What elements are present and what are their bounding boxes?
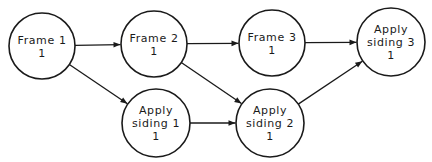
arrow-line xyxy=(69,64,127,103)
node-duration: 1 xyxy=(387,49,395,62)
arrow-line xyxy=(181,63,241,104)
nodes: Frame 11Frame 21Frame 31Applysiding 31Ap… xyxy=(9,8,425,157)
arrow-line xyxy=(75,45,121,46)
node-frame2: Frame 21 xyxy=(121,11,187,77)
node-label: Apply xyxy=(139,104,173,117)
node-duration: 1 xyxy=(266,130,274,143)
node-duration: 1 xyxy=(38,47,46,60)
node-label: Frame 2 xyxy=(130,32,179,45)
node-duration: 1 xyxy=(268,44,276,57)
node-siding3: Applysiding 31 xyxy=(357,8,425,76)
node-frame3: Frame 31 xyxy=(239,10,305,76)
node-label: Apply xyxy=(253,104,287,117)
node-duration: 1 xyxy=(150,45,158,58)
node-frame1: Frame 11 xyxy=(9,13,75,79)
edge-frame1-to-siding1 xyxy=(69,64,127,103)
arrow-line xyxy=(298,61,362,104)
edge-frame1-to-frame2 xyxy=(75,45,121,46)
edge-siding2-to-siding3 xyxy=(298,61,362,104)
edge-frame2-to-siding2 xyxy=(181,63,241,104)
node-label: Frame 3 xyxy=(248,31,297,44)
node-label: siding 2 xyxy=(246,117,294,130)
activity-network-diagram: Frame 11Frame 21Frame 31Applysiding 31Ap… xyxy=(0,0,432,162)
node-duration: 1 xyxy=(152,130,160,143)
node-siding1: Applysiding 11 xyxy=(122,89,190,157)
node-label: siding 3 xyxy=(367,36,415,49)
node-label: siding 1 xyxy=(132,117,180,130)
edges xyxy=(69,42,362,123)
node-label: Frame 1 xyxy=(18,34,67,47)
node-label: Apply xyxy=(374,23,408,36)
node-siding2: Applysiding 21 xyxy=(236,89,304,157)
